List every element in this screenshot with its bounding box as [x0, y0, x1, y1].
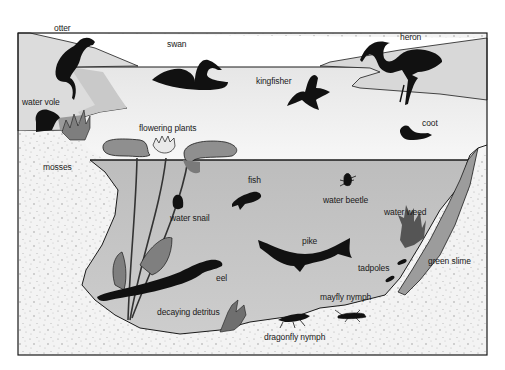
label-water-weed: water weed [384, 208, 426, 217]
label-coot: coot [422, 119, 438, 128]
pond-diagram [0, 0, 505, 370]
label-mayfly-nymph: mayfly nymph [320, 293, 371, 302]
label-kingfisher: kingfisher [256, 77, 291, 86]
label-tadpoles: tadpoles [358, 264, 389, 273]
label-heron: heron [400, 33, 421, 42]
label-pike: pike [302, 237, 317, 246]
label-water-snail: water snail [170, 214, 210, 223]
label-swan: swan [167, 40, 186, 49]
water-snail-silhouette [173, 195, 184, 209]
label-decaying-detritus: decaying detritus [157, 308, 220, 317]
label-dragonfly-nymph: dragonfly nymph [264, 333, 325, 342]
label-water-beetle: water beetle [323, 196, 368, 205]
label-flowering-plants: flowering plants [139, 124, 196, 133]
label-green-slime: green slime [428, 257, 471, 266]
label-otter: otter [54, 24, 71, 33]
label-water-vole: water vole [22, 98, 60, 107]
label-fish: fish [248, 176, 261, 185]
label-eel: eel [216, 274, 227, 283]
label-mosses: mosses [43, 163, 72, 172]
